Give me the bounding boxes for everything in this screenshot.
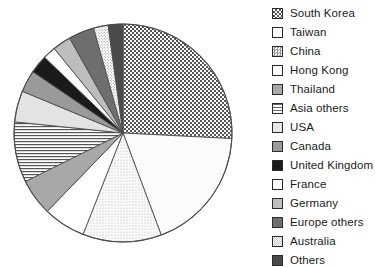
legend-item-united-kingdom: United Kingdom bbox=[272, 156, 375, 175]
legend-swatch-china bbox=[272, 46, 283, 57]
pie-slice-group bbox=[14, 24, 232, 242]
legend-item-usa: USA bbox=[272, 118, 375, 137]
legend-swatch-usa bbox=[272, 122, 283, 133]
legend-item-europe-others: Europe others bbox=[272, 213, 375, 232]
legend-swatch-south-korea bbox=[272, 8, 283, 19]
legend-label-taiwan: Taiwan bbox=[290, 27, 326, 38]
chart-legend: South Korea Taiwan China Hong Kong Thail… bbox=[272, 4, 375, 267]
legend-swatch-taiwan bbox=[272, 27, 283, 38]
legend-swatch-europe-others bbox=[272, 217, 283, 228]
legend-swatch-germany bbox=[272, 198, 283, 209]
legend-swatch-thailand bbox=[272, 84, 283, 95]
legend-label-australia: Australia bbox=[290, 236, 336, 247]
legend-label-hong-kong: Hong Kong bbox=[290, 65, 348, 76]
pie-slice-south-korea bbox=[123, 24, 232, 139]
legend-label-asia-others: Asia others bbox=[290, 103, 349, 114]
legend-item-china: China bbox=[272, 42, 375, 61]
legend-swatch-hong-kong bbox=[272, 65, 283, 76]
legend-item-australia: Australia bbox=[272, 232, 375, 251]
legend-item-thailand: Thailand bbox=[272, 80, 375, 99]
legend-label-germany: Germany bbox=[290, 198, 338, 209]
legend-swatch-france bbox=[272, 179, 283, 190]
legend-label-south-korea: South Korea bbox=[290, 8, 355, 19]
legend-swatch-united-kingdom bbox=[272, 160, 283, 171]
legend-item-france: France bbox=[272, 175, 375, 194]
legend-label-canada: Canada bbox=[290, 141, 331, 152]
legend-swatch-asia-others bbox=[272, 103, 283, 114]
pie-chart-plot bbox=[0, 0, 240, 267]
legend-swatch-australia bbox=[272, 236, 283, 247]
legend-label-united-kingdom: United Kingdom bbox=[290, 160, 373, 171]
pie-svg bbox=[0, 0, 240, 267]
legend-item-others: Others bbox=[272, 251, 375, 267]
legend-swatch-others bbox=[272, 255, 283, 266]
legend-item-asia-others: Asia others bbox=[272, 99, 375, 118]
legend-label-china: China bbox=[290, 46, 321, 57]
legend-label-others: Others bbox=[290, 255, 325, 266]
legend-label-europe-others: Europe others bbox=[290, 217, 364, 228]
legend-label-usa: USA bbox=[290, 122, 314, 133]
legend-item-hong-kong: Hong Kong bbox=[272, 61, 375, 80]
legend-item-canada: Canada bbox=[272, 137, 375, 156]
legend-label-france: France bbox=[290, 179, 326, 190]
legend-item-taiwan: Taiwan bbox=[272, 23, 375, 42]
legend-swatch-canada bbox=[272, 141, 283, 152]
legend-label-thailand: Thailand bbox=[290, 84, 335, 95]
legend-item-germany: Germany bbox=[272, 194, 375, 213]
pie-chart-figure: South Korea Taiwan China Hong Kong Thail… bbox=[0, 0, 375, 267]
legend-item-south-korea: South Korea bbox=[272, 4, 375, 23]
